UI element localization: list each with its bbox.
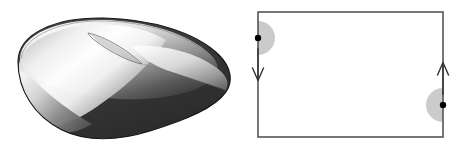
identification-square-diagram	[240, 0, 471, 148]
figure-root: p p	[0, 0, 471, 148]
mobius-strip-panel	[0, 0, 240, 148]
polygon-rectangle	[258, 12, 443, 137]
mobius-strip-rendering	[0, 0, 240, 148]
point-p-left-dot	[255, 35, 261, 41]
fundamental-polygon-panel: p p	[240, 0, 471, 148]
mobius-surface-body	[18, 18, 230, 139]
point-p-right-dot	[440, 102, 446, 108]
